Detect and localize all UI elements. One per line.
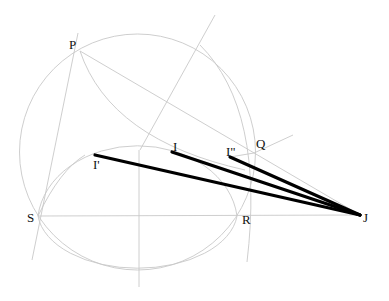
segment-i1-j <box>95 155 360 215</box>
label-p: P <box>69 38 76 51</box>
label-i-prime: I' <box>93 158 100 171</box>
line-s-j <box>38 215 360 216</box>
construction-drawing <box>0 0 389 301</box>
diagram-canvas: P Q S R J I I' I" <box>0 0 389 301</box>
line-p-j <box>80 51 360 215</box>
arc-from-p <box>80 51 245 170</box>
label-r: R <box>242 213 251 226</box>
segment-i2-j <box>230 157 360 215</box>
label-i-double-prime: I" <box>226 145 236 158</box>
label-q: Q <box>256 137 265 150</box>
large-circle <box>20 34 256 270</box>
label-j: J <box>363 211 368 224</box>
lower-circle-bottom-arc <box>38 216 237 268</box>
segment-i-j <box>172 152 360 215</box>
arc-s-up <box>38 155 85 216</box>
label-s: S <box>27 211 34 224</box>
label-i: I <box>173 140 177 153</box>
